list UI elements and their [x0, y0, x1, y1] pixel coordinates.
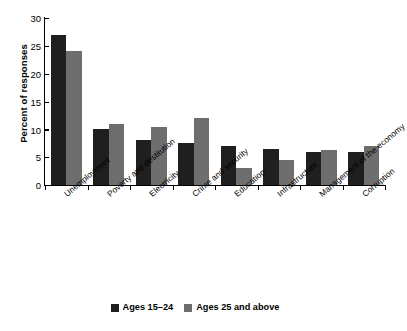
bar-group [178, 18, 209, 185]
x-tick-mark [300, 185, 301, 190]
legend-swatch [184, 304, 192, 312]
plot-area: 051015202530 [45, 18, 385, 185]
y-axis-title: Percent of responses [18, 24, 29, 164]
legend-item: Ages 25 and above [184, 303, 279, 312]
y-tick-label: 30 [30, 13, 45, 24]
chart-legend: Ages 15–24Ages 25 and above [0, 303, 390, 312]
y-tick-label: 10 [30, 125, 45, 136]
y-tick-mark [45, 157, 49, 158]
y-tick-mark [45, 102, 49, 103]
y-tick-5: 5 [36, 148, 45, 166]
x-tick-mark [88, 185, 89, 190]
bar-group [263, 18, 294, 185]
y-tick-mark [45, 129, 49, 130]
x-tick-mark [45, 185, 46, 190]
y-tick-label: 15 [30, 97, 45, 108]
y-tick-label: 0 [36, 180, 45, 191]
bar [263, 149, 279, 185]
y-tick-mark [45, 46, 49, 47]
y-tick-label: 25 [30, 41, 45, 52]
x-tick-mark [343, 185, 344, 190]
bar [51, 35, 67, 185]
y-tick-10: 10 [30, 120, 45, 138]
x-tick-mark [173, 185, 174, 190]
bar-group [51, 18, 82, 185]
x-tick-mark [258, 185, 259, 190]
legend-label: Ages 25 and above [196, 303, 279, 312]
y-tick-mark [45, 18, 49, 19]
x-tick-mark [385, 185, 386, 190]
y-tick-30: 30 [30, 9, 45, 27]
bar [178, 143, 194, 185]
y-tick-label: 20 [30, 69, 45, 80]
y-tick-0: 0 [36, 176, 45, 194]
y-tick-25: 25 [30, 37, 45, 55]
y-tick-mark [45, 74, 49, 75]
legend-swatch [111, 304, 119, 312]
legend-item: Ages 15–24 [111, 303, 174, 312]
y-tick-20: 20 [30, 65, 45, 83]
y-tick-label: 5 [36, 152, 45, 163]
legend-label: Ages 15–24 [123, 303, 174, 312]
bar [66, 51, 82, 185]
x-tick-mark [215, 185, 216, 190]
y-tick-15: 15 [30, 93, 45, 111]
x-tick-mark [130, 185, 131, 190]
